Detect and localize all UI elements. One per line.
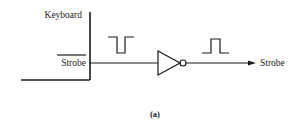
output-strobe: Strobe [186, 39, 285, 68]
output-strobe-label: Strobe [260, 58, 285, 68]
keyboard-label: Keyboard [45, 10, 83, 20]
input-strobe: Strobe [57, 37, 158, 68]
low-pulse-waveform-icon [108, 37, 134, 53]
high-pulse-waveform-icon [202, 39, 229, 53]
input-strobe-label: Strobe [61, 58, 86, 68]
inverter-strobe-diagram: Keyboard Strobe Strobe (a) [0, 0, 307, 126]
inverter-gate [158, 51, 186, 75]
arrowhead-icon [248, 61, 256, 66]
keyboard-block: Keyboard [21, 10, 90, 80]
inverter-triangle-icon [158, 51, 180, 75]
figure-caption: (a) [150, 109, 160, 119]
